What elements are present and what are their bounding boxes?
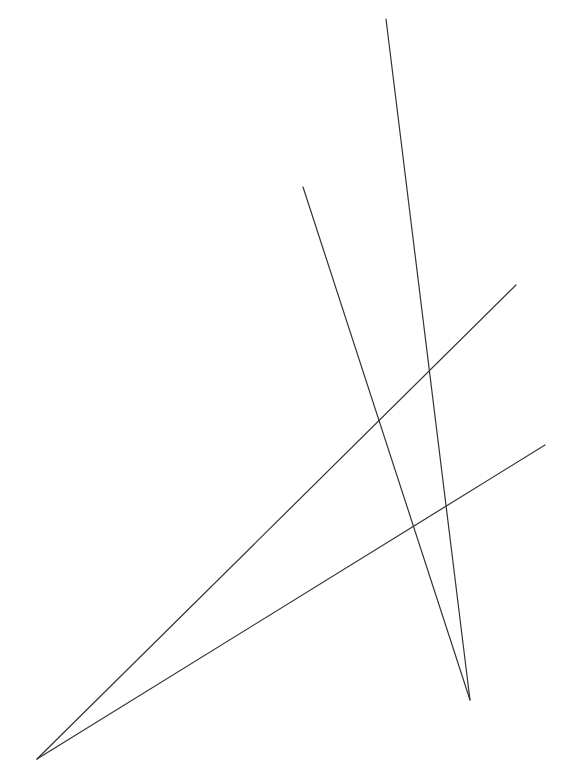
- line-diagram: [0, 0, 564, 779]
- background: [0, 0, 564, 779]
